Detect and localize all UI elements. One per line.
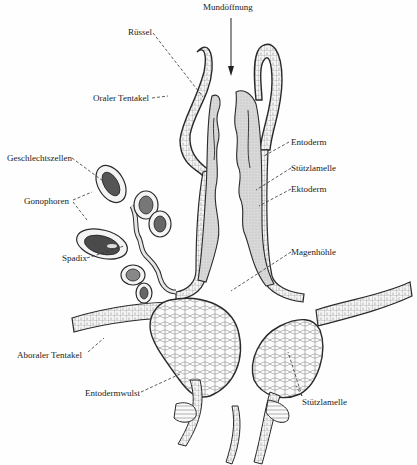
label-stuetzlamelle-top: Stützlamelle xyxy=(291,163,336,173)
polyp-illustration xyxy=(0,0,417,465)
aboral-right xyxy=(226,282,412,464)
label-ektoderm: Ektoderm xyxy=(291,184,327,194)
label-aboraler-tentakel: Aboraler Tentakel xyxy=(17,350,82,360)
label-ruessel: Rüssel xyxy=(128,27,152,37)
label-entodermwulst: Entodermwulst xyxy=(85,388,140,398)
gonophore-6 xyxy=(136,283,152,303)
gonophore-1 xyxy=(90,160,133,208)
mouth-arrow xyxy=(228,18,234,76)
label-spadix: Spadix xyxy=(62,253,87,263)
gonophore-3 xyxy=(149,211,171,237)
label-geschlechtszellen: Geschlechtszellen xyxy=(7,153,72,163)
gonophore-5 xyxy=(121,265,145,285)
label-stuetzlamelle-bottom: Stützlamelle xyxy=(302,397,347,407)
aboral-left xyxy=(72,298,240,446)
body-column xyxy=(176,91,304,302)
gonophore-cluster xyxy=(73,160,176,303)
diagram-canvas: Mundöffnung Rüssel Oraler Tentakel Gesch… xyxy=(0,0,417,465)
label-magenhoehle: Magenhöhle xyxy=(291,247,336,257)
label-entoderm: Entoderm xyxy=(291,137,327,147)
label-oraler-tentakel: Oraler Tentakel xyxy=(93,93,149,103)
label-mundoeffnung: Mundöffnung xyxy=(203,2,253,12)
label-gonophoren: Gonophoren xyxy=(24,196,69,206)
